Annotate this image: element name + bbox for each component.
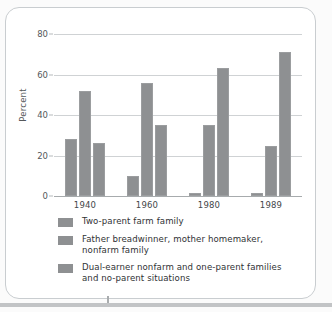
- bar-1980-series-2: [203, 125, 215, 196]
- bar-1989-series-1: [251, 193, 263, 196]
- x-tick-label-1980: 1980: [179, 200, 239, 210]
- bar-group-1940: 1940: [54, 34, 116, 196]
- y-axis-title: Percent: [18, 75, 28, 135]
- bar-group-1989: 1989: [240, 34, 302, 196]
- bar-group-1960: 1960: [116, 34, 178, 196]
- y-tick-mark-80: [49, 34, 53, 35]
- x-tick-label-1960: 1960: [117, 200, 177, 210]
- y-tick-label-20: 20: [37, 151, 48, 161]
- bar-1960-series-2: [141, 83, 153, 196]
- x-tick-label-1989: 1989: [241, 200, 301, 210]
- legend-swatch-3: [58, 264, 73, 273]
- bar-groups: 1940196019801989: [54, 34, 302, 196]
- bar-1940-series-3: [93, 143, 105, 196]
- bar-1980-series-3: [217, 68, 229, 196]
- bar-1960-series-1: [127, 176, 139, 196]
- y-tick-mark-40: [49, 115, 53, 116]
- bar-group-1980: 1980: [178, 34, 240, 196]
- legend-swatch-2: [58, 236, 73, 245]
- bar-1989-series-2: [265, 146, 277, 196]
- gridline-0: [54, 196, 302, 197]
- y-tick-mark-20: [49, 155, 53, 156]
- legend-swatch-1: [58, 218, 73, 227]
- x-tick-label-1940: 1940: [55, 200, 115, 210]
- y-tick-label-60: 60: [37, 70, 48, 80]
- bar-1989-series-3: [279, 52, 291, 196]
- y-tick-label-0: 0: [43, 191, 48, 201]
- chart-legend: Two-parent farm familyFather breadwinner…: [58, 216, 308, 290]
- bar-1960-series-3: [155, 125, 167, 196]
- legend-label-1: Two-parent farm family: [82, 216, 184, 227]
- y-tick-label-80: 80: [37, 29, 48, 39]
- y-tick-mark-0: [49, 196, 53, 197]
- chart-card: Percent 020406080 1940196019801989 Two-p…: [5, 7, 316, 299]
- figure-root: Percent 020406080 1940196019801989 Two-p…: [0, 0, 332, 312]
- page-bottom-strip: [0, 303, 332, 307]
- plot-area: 020406080 1940196019801989: [54, 34, 302, 196]
- bar-1940-series-1: [65, 139, 77, 196]
- legend-label-2: Father breadwinner, mother homemaker,non…: [82, 234, 263, 255]
- y-tick-mark-60: [49, 74, 53, 75]
- legend-item-2: Father breadwinner, mother homemaker,non…: [58, 234, 308, 255]
- y-tick-label-40: 40: [37, 110, 48, 120]
- bar-1980-series-1: [189, 193, 201, 196]
- legend-item-1: Two-parent farm family: [58, 216, 308, 227]
- legend-label-2-line2: nonfarm family: [82, 245, 263, 256]
- bar-1940-series-2: [79, 91, 91, 196]
- legend-label-3: Dual-earner nonfarm and one-parent famil…: [82, 262, 281, 283]
- legend-label-3-line2: and no-parent situations: [82, 273, 281, 284]
- legend-item-3: Dual-earner nonfarm and one-parent famil…: [58, 262, 308, 283]
